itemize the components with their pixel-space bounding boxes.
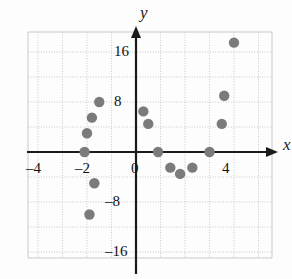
data-point [204, 147, 214, 157]
grid-lines [28, 32, 272, 258]
x-tick-label: –2 [75, 161, 90, 176]
data-points-group [79, 37, 239, 219]
data-point [229, 37, 239, 47]
x-tick-label: –4 [26, 161, 41, 176]
scatter-plot-figure: x y –4–204168–8–16 [0, 0, 292, 279]
y-tick-label: 16 [114, 44, 129, 59]
axis-lines [27, 26, 278, 274]
x-tick-label: 4 [222, 161, 230, 176]
data-point [94, 97, 104, 107]
data-point [143, 119, 153, 129]
x-axis-label: x [283, 136, 291, 153]
plot-canvas [0, 0, 292, 279]
data-point [165, 162, 175, 172]
y-axis-label: y [140, 4, 148, 21]
y-tick-label: –8 [105, 194, 120, 209]
data-point [175, 169, 185, 179]
x-tick-label: 0 [131, 161, 139, 176]
data-point [82, 128, 92, 138]
data-point [219, 91, 229, 101]
data-point [153, 147, 163, 157]
data-point [79, 147, 89, 157]
y-tick-label: –16 [105, 244, 128, 259]
data-point [138, 106, 148, 116]
data-point [84, 209, 94, 219]
y-tick-label: 8 [114, 94, 122, 109]
data-point [217, 119, 227, 129]
data-point [87, 112, 97, 122]
data-point [89, 178, 99, 188]
data-point [187, 162, 197, 172]
